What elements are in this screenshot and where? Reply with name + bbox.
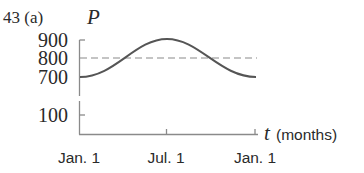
x-tick-label-jan-end: Jan. 1 (234, 149, 276, 166)
y-axis (80, 40, 86, 135)
y-tick-label-100: 100 (38, 104, 68, 126)
y-tick-label-700: 700 (38, 66, 68, 88)
x-axis-label-units: (months) (276, 126, 337, 143)
y-axis-label: P (86, 5, 100, 29)
x-axis (79, 129, 258, 135)
problem-label: 43 (a) (3, 8, 43, 27)
x-axis-label-symbol: t (264, 121, 271, 145)
x-tick-label-jan-start: Jan. 1 (58, 149, 100, 166)
x-tick-label-jul: Jul. 1 (147, 149, 184, 166)
chart: 43 (a) P 900 800 700 100 t (months) Jan.… (0, 0, 364, 173)
